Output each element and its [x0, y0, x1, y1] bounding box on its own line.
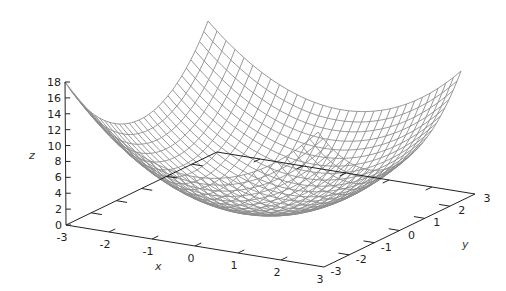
z-tick-label: 10	[47, 140, 61, 153]
x-tick-label: -1	[143, 245, 154, 258]
x-axis-label: x	[154, 260, 162, 273]
z-tick-label: 2	[55, 203, 62, 216]
y-axis-label: y	[461, 238, 469, 251]
mesh-line-y	[144, 118, 400, 209]
mesh-line-x	[133, 85, 279, 190]
x-tick	[152, 236, 158, 239]
y-tick-label: 1	[433, 216, 440, 229]
y-tick	[389, 229, 400, 231]
x-tick	[195, 243, 201, 246]
y-tick	[439, 204, 450, 206]
y-tick-label: 3	[484, 192, 491, 205]
z-tick-label: 18	[47, 76, 61, 89]
x-tick	[238, 250, 244, 253]
x-tick-label: 3	[317, 273, 324, 286]
back-y-tick	[91, 213, 102, 215]
back-y-tick	[116, 201, 127, 203]
y-tick-label: 2	[458, 204, 465, 217]
x-tick-label: -2	[100, 238, 111, 251]
axis-tick-labels: 024681012141618-3-2-10123-3-2-10123	[47, 76, 491, 286]
z-axis-line	[65, 82, 66, 225]
back-y-tick	[142, 189, 153, 191]
z-tick-label: 12	[47, 124, 61, 137]
y-tick	[414, 217, 425, 219]
z-tick-label: 6	[55, 171, 62, 184]
back-x-tick	[426, 187, 432, 190]
x-tick-label: 2	[274, 266, 281, 279]
y-tick-label: 0	[408, 229, 415, 242]
z-tick-label: 8	[55, 155, 62, 168]
z-tick-label: 4	[55, 187, 62, 200]
y-tick-label: -2	[356, 253, 367, 266]
x-tick-label: 0	[188, 252, 195, 265]
z-axis-label: z	[28, 149, 35, 162]
back-y-tick	[192, 164, 203, 166]
y-tick-label: -1	[381, 241, 392, 254]
x-tick	[281, 257, 287, 260]
surface-plot: 024681012141618-3-2-10123-3-2-10123 x y …	[0, 0, 506, 291]
surface-mesh	[65, 21, 461, 216]
mesh-line-y	[177, 83, 432, 173]
x-tick-label: -3	[57, 231, 68, 244]
x-tick	[109, 229, 115, 232]
z-tick-label: 14	[47, 108, 61, 121]
z-tick-label: 16	[47, 92, 61, 105]
y-tick	[364, 241, 375, 243]
x-tick-label: 1	[231, 259, 238, 272]
y-tick-label: -3	[331, 265, 342, 278]
mesh-line-y	[191, 60, 445, 150]
mesh-line-y	[204, 32, 457, 123]
mesh-line-y	[208, 21, 461, 112]
back-x-tick	[383, 180, 389, 183]
y-tick	[338, 253, 349, 255]
